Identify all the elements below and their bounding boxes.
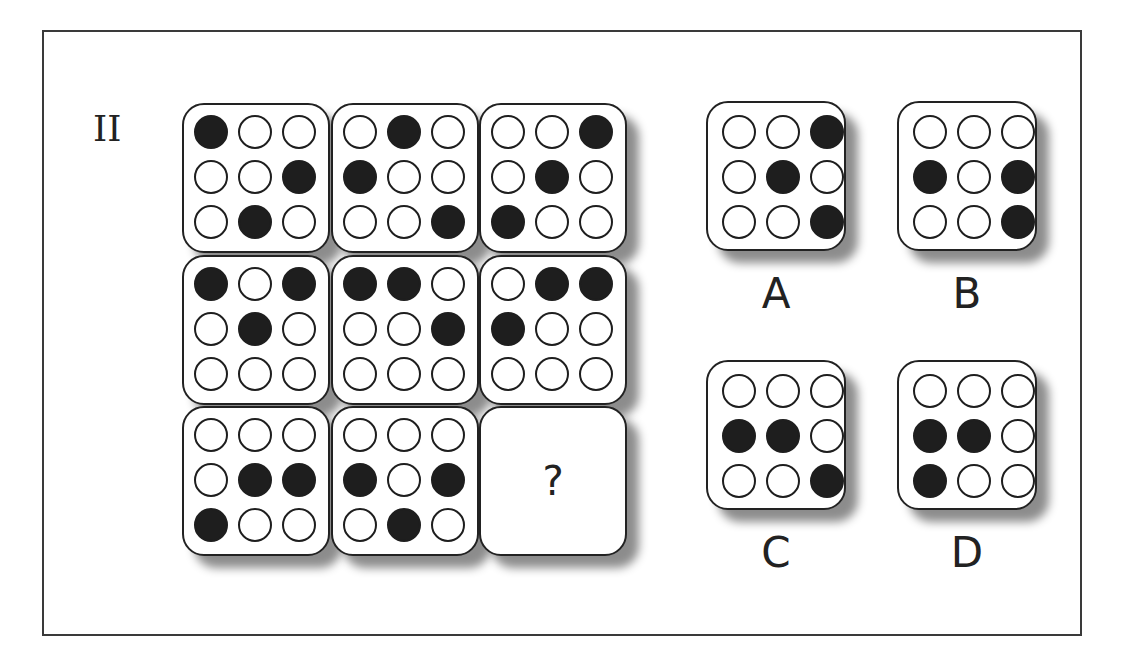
dot-grid (722, 115, 848, 241)
option-d-tile[interactable] (897, 360, 1037, 510)
option-b-label[interactable]: B (897, 269, 1037, 318)
dot-grid (343, 418, 469, 544)
empty-dot (579, 160, 613, 194)
empty-dot (194, 160, 228, 194)
dot-grid (722, 374, 848, 500)
filled-dot (491, 312, 525, 346)
filled-dot (810, 464, 844, 498)
filled-dot (282, 160, 316, 194)
matrix-cell-r2c3 (479, 255, 627, 405)
matrix-cell-r1c2 (331, 103, 479, 253)
empty-dot (238, 357, 272, 391)
filled-dot (343, 160, 377, 194)
filled-dot (387, 267, 421, 301)
filled-dot (579, 267, 613, 301)
empty-dot (810, 374, 844, 408)
empty-dot (431, 267, 465, 301)
filled-dot (766, 419, 800, 453)
empty-dot (957, 464, 991, 498)
empty-dot (238, 160, 272, 194)
filled-dot (238, 312, 272, 346)
filled-dot (810, 115, 844, 149)
empty-dot (491, 357, 525, 391)
filled-dot (282, 267, 316, 301)
empty-dot (766, 205, 800, 239)
empty-dot (343, 312, 377, 346)
filled-dot (194, 115, 228, 149)
filled-dot (343, 463, 377, 497)
empty-dot (282, 508, 316, 542)
filled-dot (387, 508, 421, 542)
puzzle-number: II (93, 108, 121, 149)
empty-dot (238, 115, 272, 149)
dot-grid (491, 267, 617, 393)
matrix-cell-r1c1 (182, 103, 330, 253)
filled-dot (431, 205, 465, 239)
empty-dot (913, 374, 947, 408)
empty-dot (579, 312, 613, 346)
option-c-label[interactable]: C (706, 528, 846, 577)
empty-dot (282, 205, 316, 239)
empty-dot (431, 508, 465, 542)
empty-dot (387, 463, 421, 497)
dot-grid (194, 115, 320, 241)
empty-dot (238, 508, 272, 542)
empty-dot (535, 357, 569, 391)
filled-dot (431, 463, 465, 497)
empty-dot (387, 312, 421, 346)
empty-dot (387, 205, 421, 239)
filled-dot (913, 160, 947, 194)
empty-dot (722, 115, 756, 149)
empty-dot (579, 357, 613, 391)
filled-dot (431, 312, 465, 346)
filled-dot (913, 464, 947, 498)
dot-grid (491, 115, 617, 241)
option-a-label[interactable]: A (706, 269, 846, 318)
empty-dot (194, 205, 228, 239)
dot-grid (343, 115, 469, 241)
empty-dot (387, 160, 421, 194)
empty-dot (957, 160, 991, 194)
option-d-label[interactable]: D (897, 528, 1037, 577)
dot-grid (194, 267, 320, 393)
filled-dot (194, 508, 228, 542)
empty-dot (282, 418, 316, 452)
empty-dot (579, 205, 613, 239)
filled-dot (282, 463, 316, 497)
empty-dot (491, 115, 525, 149)
filled-dot (238, 205, 272, 239)
empty-dot (238, 418, 272, 452)
empty-dot (722, 464, 756, 498)
matrix-cell-r3c3: ? (479, 406, 627, 556)
dot-grid (913, 115, 1039, 241)
matrix-cell-r2c1 (182, 255, 330, 405)
empty-dot (431, 115, 465, 149)
option-c-tile[interactable] (706, 360, 846, 510)
empty-dot (387, 418, 421, 452)
empty-dot (431, 160, 465, 194)
empty-dot (535, 115, 569, 149)
empty-dot (766, 374, 800, 408)
filled-dot (343, 267, 377, 301)
filled-dot (957, 419, 991, 453)
filled-dot (1001, 205, 1035, 239)
empty-dot (282, 357, 316, 391)
option-a-tile[interactable] (706, 101, 846, 251)
empty-dot (1001, 374, 1035, 408)
option-b-tile[interactable] (897, 101, 1037, 251)
empty-dot (431, 357, 465, 391)
dot-grid (913, 374, 1039, 500)
empty-dot (491, 160, 525, 194)
empty-dot (913, 115, 947, 149)
empty-dot (913, 205, 947, 239)
empty-dot (343, 508, 377, 542)
empty-dot (343, 115, 377, 149)
dot-grid (343, 267, 469, 393)
empty-dot (722, 205, 756, 239)
filled-dot (535, 160, 569, 194)
filled-dot (722, 419, 756, 453)
filled-dot (535, 267, 569, 301)
empty-dot (343, 205, 377, 239)
empty-dot (766, 464, 800, 498)
empty-dot (343, 357, 377, 391)
